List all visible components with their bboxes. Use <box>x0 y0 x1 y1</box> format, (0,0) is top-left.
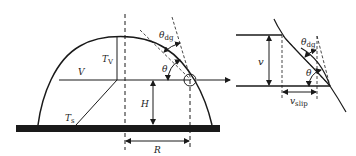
inset-interface-curve <box>274 19 346 112</box>
substrate <box>16 125 220 132</box>
label-theta-dg: θdg <box>159 30 174 42</box>
tangent-dynamic <box>172 17 191 80</box>
label-inset-theta-dg: θdg <box>301 37 316 49</box>
label-tv: TV <box>102 54 114 66</box>
label-v-velocity: v <box>258 56 264 67</box>
label-theta: θ <box>162 64 168 74</box>
label-r: R <box>153 145 161 155</box>
label-h: H <box>140 99 149 109</box>
ts-line <box>76 80 117 125</box>
label-inset-theta: θ <box>306 68 312 78</box>
label-ts: Ts <box>65 113 75 125</box>
left-panel: θdg θ TV V H Ts R <box>16 14 230 155</box>
droplet-diagram: θdg θ TV V H Ts R v θdg θ vslip <box>0 0 356 156</box>
label-v: V <box>78 67 86 77</box>
theta-dg-arc <box>164 43 180 52</box>
label-vslip: vslip <box>290 96 308 108</box>
right-panel-inset: v θdg θ vslip <box>236 19 346 112</box>
